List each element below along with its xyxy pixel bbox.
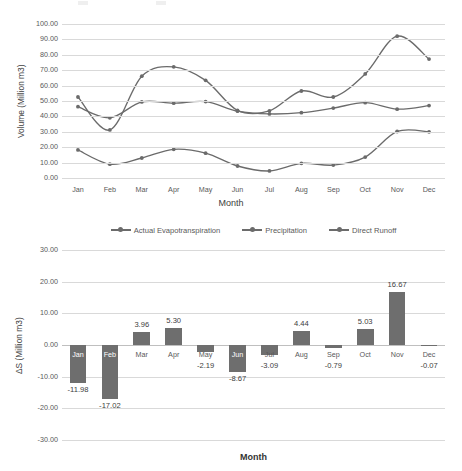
bar-value-label: -11.98 <box>67 386 88 394</box>
legend-label: Direct Runoff <box>352 226 396 235</box>
bar-value-label: -17.02 <box>99 402 121 410</box>
bar-value-label: -0.07 <box>420 362 437 370</box>
line-chart-x-tick-label: Apr <box>168 186 179 193</box>
series-point <box>76 148 80 152</box>
gridline <box>62 132 445 133</box>
line-chart-y-tick-label: 30.00 <box>40 128 58 135</box>
bar-mar[interactable] <box>133 332 150 345</box>
gridline <box>62 24 445 25</box>
legend-marker-icon <box>242 226 262 234</box>
legend-item-actual-evapotranspiration[interactable]: Actual Evapotranspiration <box>111 226 221 235</box>
line-chart-y-tick-label: 10.00 <box>40 159 58 166</box>
series-point <box>140 74 144 78</box>
bar-chart-y-axis-title: ΔS (Million m3) <box>14 317 24 374</box>
series-point <box>268 169 272 173</box>
bar-chart-x-tick-label: Apr <box>168 351 179 358</box>
gridline <box>62 178 445 179</box>
series-point <box>331 106 335 110</box>
bar-aug[interactable] <box>293 331 310 345</box>
line-chart-y-tick-label: 100.00 <box>36 20 58 27</box>
bar-chart-x-tick-label: Jun <box>232 351 244 358</box>
series-point <box>363 155 367 159</box>
gridline <box>62 86 445 87</box>
line-chart-y-tick-label: 20.00 <box>40 144 58 151</box>
line-chart-x-tick-label: Sep <box>327 186 340 193</box>
series-line-direct-runoff <box>78 130 429 171</box>
series-line-actual-evapotranspiration <box>78 101 429 118</box>
line-chart-x-axis-title: Month <box>0 198 462 208</box>
gridline <box>62 101 445 102</box>
zero-axis-line <box>62 345 445 346</box>
line-chart-x-tick-label: Oct <box>360 186 371 193</box>
legend-marker-icon <box>111 226 131 234</box>
bar-value-label: -3.09 <box>261 362 278 370</box>
bar-value-label: -2.19 <box>197 362 214 370</box>
bar-chart-y-tick-label: -20.00 <box>38 405 58 412</box>
line-chart: Volume (Million m3) 0.0010.0020.0030.004… <box>0 0 462 235</box>
line-chart-x-tick-label: Mar <box>136 186 148 193</box>
bar-sep[interactable] <box>325 345 342 348</box>
series-point <box>427 104 431 108</box>
line-chart-x-tick-label: Jun <box>232 186 244 193</box>
line-chart-y-tick-label: 80.00 <box>40 51 58 58</box>
bar-chart: ΔS (Million m3) -30.00-20.00-10.000.0010… <box>0 240 462 471</box>
series-point <box>395 34 399 38</box>
bar-value-label: 16.67 <box>388 281 407 289</box>
line-chart-y-tick-label: 50.00 <box>40 97 58 104</box>
legend-label: Precipitation <box>265 226 307 235</box>
gridline <box>62 39 445 40</box>
bar-value-label: 5.30 <box>166 317 181 325</box>
bar-chart-y-tick-label: -30.00 <box>38 436 58 443</box>
bar-chart-x-tick-label: Dec <box>423 351 436 358</box>
bar-chart-x-tick-label: Nov <box>391 351 404 358</box>
gridline <box>62 250 445 251</box>
bar-value-label: 4.44 <box>294 320 309 328</box>
gridline <box>62 377 445 378</box>
series-point <box>76 95 80 99</box>
line-chart-x-tick-label: Jul <box>265 186 274 193</box>
line-chart-x-tick-label: May <box>199 186 213 193</box>
bar-nov[interactable] <box>389 292 406 345</box>
series-point <box>395 107 399 111</box>
gridline <box>62 116 445 117</box>
bar-dec[interactable] <box>421 345 438 346</box>
legend-label: Actual Evapotranspiration <box>134 226 221 235</box>
series-point <box>140 156 144 160</box>
series-point <box>236 164 240 168</box>
line-chart-x-tick-label: Dec <box>423 186 436 193</box>
figure-container: Volume (Million m3) 0.0010.0020.0030.004… <box>0 0 462 471</box>
line-chart-x-tick-label: Feb <box>104 186 116 193</box>
bar-chart-x-tick-label: May <box>199 351 213 358</box>
bar-value-label: -8.67 <box>229 375 246 383</box>
line-chart-x-tick-label: Nov <box>391 186 404 193</box>
line-chart-y-tick-label: 0.00 <box>44 174 58 181</box>
bar-chart-x-tick-label: Aug <box>295 351 308 358</box>
bar-oct[interactable] <box>357 329 374 345</box>
series-point <box>331 95 335 99</box>
bar-chart-y-tick-label: -10.00 <box>38 373 58 380</box>
bar-chart-x-tick-label: Oct <box>360 351 371 358</box>
bar-apr[interactable] <box>165 328 182 345</box>
bar-chart-y-tick-label: 20.00 <box>40 278 58 285</box>
bar-chart-y-tick-label: 10.00 <box>40 310 58 317</box>
gridline <box>62 313 445 314</box>
bar-chart-plot-area: -30.00-20.00-10.000.0010.0020.0030.00Jan… <box>62 250 445 440</box>
series-point <box>204 151 208 155</box>
legend-item-precipitation[interactable]: Precipitation <box>242 226 307 235</box>
line-chart-y-tick-label: 70.00 <box>40 67 58 74</box>
bar-chart-y-tick-label: 30.00 <box>40 246 58 253</box>
gridline <box>62 147 445 148</box>
series-point <box>172 65 176 69</box>
bar-chart-x-axis-title: Month <box>62 452 445 462</box>
series-point <box>236 108 240 112</box>
series-point <box>76 105 80 109</box>
bar-chart-y-tick-label: 0.00 <box>44 341 58 348</box>
bar-chart-x-tick-label: Jul <box>265 351 274 358</box>
series-point <box>268 109 272 113</box>
legend-item-direct-runoff[interactable]: Direct Runoff <box>329 226 396 235</box>
series-point <box>204 78 208 82</box>
series-point <box>331 163 335 167</box>
series-point <box>427 57 431 61</box>
series-point <box>363 72 367 76</box>
line-chart-y-axis-title: Volume (Million m3) <box>16 64 26 138</box>
